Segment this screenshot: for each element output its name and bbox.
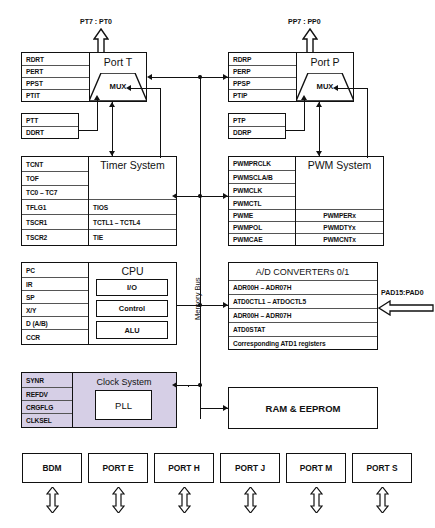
bottom-port-bdm[interactable]: BDM bbox=[22, 453, 82, 483]
bottom-port-port-h-arrow-icon bbox=[178, 487, 191, 513]
cpu-header: CPU bbox=[88, 263, 177, 279]
memory-bus-label: Memory Bus bbox=[193, 277, 202, 320]
port-t-register-ddrt: DDRT bbox=[22, 126, 78, 138]
bottom-port-port-j[interactable]: PORT J bbox=[220, 453, 280, 483]
clock-system-header: Clock System bbox=[72, 373, 176, 390]
bottom-port-port-m[interactable]: PORT M bbox=[286, 453, 346, 483]
timer-register-tios: TIOS bbox=[89, 199, 176, 214]
port-p-mux-label: MUX bbox=[296, 82, 354, 91]
arrow-pwm-to-port-p-up bbox=[316, 102, 322, 107]
port-p-register-ddrp: DDRP bbox=[229, 126, 285, 138]
port-t-register-pert: PERT bbox=[22, 65, 89, 77]
pwm-register-pwmperx: PWMPERx bbox=[296, 209, 383, 221]
wire-ptt-to-mux-t-v bbox=[97, 100, 98, 131]
wire-ptt-to-mux-t-h bbox=[79, 130, 98, 131]
memory-bus-trunk bbox=[200, 77, 201, 419]
timer-register-tcnt: TCNT bbox=[22, 157, 88, 171]
cpu-register-ccr: CCR bbox=[22, 329, 88, 344]
timer-register-tc0-tc7: TC0 – TC7 bbox=[22, 185, 88, 199]
wire-ptp-to-mux-p-h bbox=[286, 130, 305, 131]
pwm-register-pwmpol: PWMPOL bbox=[229, 221, 295, 233]
bottom-port-port-s[interactable]: PORT S bbox=[352, 453, 412, 483]
port-t-register-ptit: PTIT bbox=[22, 89, 89, 101]
timer-register-tscr1: TSCR1 bbox=[22, 214, 88, 229]
arrow-timer-to-port-t-down bbox=[109, 151, 115, 156]
arrow-bus-to-ram bbox=[223, 405, 228, 411]
port-p-pin-label: PP7 : PP0 bbox=[288, 18, 321, 25]
cpu-register-sp: SP bbox=[22, 290, 88, 303]
bottom-port-port-h[interactable]: PORT H bbox=[154, 453, 214, 483]
cpu-register-xy: X/Y bbox=[22, 303, 88, 316]
port-p-pin-arrow-icon bbox=[302, 28, 318, 54]
bottom-port-port-e[interactable]: PORT E bbox=[88, 453, 148, 483]
pwm-register-pwmscla-b: PWMSCLA/B bbox=[229, 170, 295, 183]
wire-bus-to-port-t bbox=[152, 77, 200, 78]
arrow-bus-to-adc bbox=[223, 302, 228, 308]
wire-pwm-to-port-p bbox=[319, 102, 320, 156]
wire-feedback-mux-t-v bbox=[160, 88, 161, 158]
wire-cpu-to-bus bbox=[177, 305, 200, 306]
wire-bus-to-timer bbox=[177, 196, 200, 197]
arrow-pwm-to-port-p-down bbox=[316, 151, 322, 156]
cpu-register-pc: PC bbox=[22, 263, 88, 277]
port-t-pin-arrow-icon bbox=[93, 28, 109, 54]
clock-register-refdv: REFDV bbox=[22, 387, 72, 400]
clock-register-synr: SYNR bbox=[22, 373, 72, 387]
arrow-ptt-to-mux-t bbox=[94, 95, 100, 100]
arrow-bus-to-timer bbox=[172, 193, 177, 199]
adc-row-2: ADR00H – ADR07H bbox=[229, 308, 377, 322]
bottom-port-port-e-arrow-icon bbox=[112, 487, 125, 513]
pwm-register-pwmctl: PWMCTL bbox=[229, 196, 295, 209]
port-p-header: Port P bbox=[296, 53, 354, 70]
cpu-register-d-ab: D (A/B) bbox=[22, 316, 88, 329]
adc-row-4: Corresponding ATD1 registers bbox=[229, 336, 377, 349]
pwm-system-header: PWM System bbox=[295, 157, 384, 173]
bottom-port-bdm-arrow-icon bbox=[46, 487, 59, 513]
arrow-bus-to-clock bbox=[172, 382, 177, 388]
arrow-bus-to-pwm bbox=[223, 193, 228, 199]
adc-row-3: ATD0STAT bbox=[229, 322, 377, 336]
timer-register-tscr2: TSCR2 bbox=[22, 229, 88, 245]
port-t-register-rdrt: RDRT bbox=[22, 53, 89, 65]
pwm-register-pwmdtyx: PWMDTYx bbox=[296, 221, 383, 233]
bus-junction-clock bbox=[198, 383, 201, 386]
port-t-register-ppst: PPST bbox=[22, 77, 89, 89]
arrow-ptp-to-mux-p bbox=[301, 95, 307, 100]
ram-eeprom-label: RAM & EEPROM bbox=[228, 387, 378, 429]
pwm-register-pwmclk: PWMCLK bbox=[229, 183, 295, 196]
pwm-register-pwme: PWME bbox=[229, 209, 295, 221]
arrow-bus-to-port-t bbox=[147, 74, 152, 80]
clock-register-clksel: CLKSEL bbox=[22, 413, 72, 427]
port-t-pin-label: PT7 : PT0 bbox=[80, 18, 112, 25]
wire-ptp-to-mux-p-v bbox=[304, 100, 305, 131]
adc-row-0: ADR00H – ADR07H bbox=[229, 280, 377, 294]
port-t-mux-label: MUX bbox=[89, 82, 147, 91]
timer-register-tflg1: TFLG1 bbox=[22, 199, 88, 214]
pwm-register-pwmprclk: PWMPRCLK bbox=[229, 157, 295, 170]
wire-feedback-mux-p-h bbox=[338, 88, 368, 89]
port-p-register-ppsp: PPSP bbox=[229, 77, 296, 89]
port-p-register-perp: PERP bbox=[229, 65, 296, 77]
cpu-unit-io[interactable]: I/O bbox=[96, 279, 168, 296]
timer-register-tie: TIE bbox=[89, 229, 176, 245]
wire-timer-to-port-t bbox=[112, 102, 113, 156]
arrow-feedback-mux-p bbox=[333, 85, 338, 91]
bottom-port-port-j-arrow-icon bbox=[244, 487, 257, 513]
clock-register-crgflg: CRGFLG bbox=[22, 400, 72, 413]
adc-pin-label: PAD15:PAD0 bbox=[381, 289, 424, 296]
port-p-register-rdrp: RDRP bbox=[229, 53, 296, 65]
cpu-unit-control[interactable]: Control bbox=[96, 300, 168, 317]
cpu-register-ir: IR bbox=[22, 277, 88, 290]
adc-header: A/D CONVERTERs 0/1 bbox=[228, 263, 377, 280]
arrow-bus-to-port-p bbox=[223, 74, 228, 80]
timer-system-header: Timer System bbox=[88, 157, 177, 173]
bottom-port-port-m-arrow-icon bbox=[310, 487, 323, 513]
arrow-feedback-mux-t bbox=[126, 85, 131, 91]
port-p-register-ptp: PTP bbox=[229, 114, 285, 126]
timer-register-tof: TOF bbox=[22, 171, 88, 185]
pwm-register-pwmcntx: PWMCNTx bbox=[296, 233, 383, 245]
pll-block[interactable]: PLL bbox=[95, 390, 152, 420]
adc-pin-arrow-icon bbox=[378, 300, 434, 316]
cpu-unit-alu[interactable]: ALU bbox=[96, 321, 168, 339]
timer-register-tctl1-tctl4: TCTL1 – TCTL4 bbox=[89, 214, 176, 229]
